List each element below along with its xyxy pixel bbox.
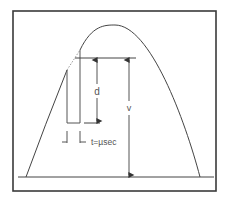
label-time: t=µsec — [91, 137, 117, 147]
time-markers — [62, 131, 86, 143]
pulse — [67, 50, 80, 123]
curve-right-segment — [80, 25, 200, 177]
curve-dotted-segment — [67, 50, 80, 70]
label-d: d — [94, 86, 100, 97]
curve-left-segment — [26, 70, 67, 177]
pulse-diagram: d v t=µsec — [0, 0, 226, 198]
frame — [13, 11, 216, 191]
label-v: v — [127, 103, 132, 113]
